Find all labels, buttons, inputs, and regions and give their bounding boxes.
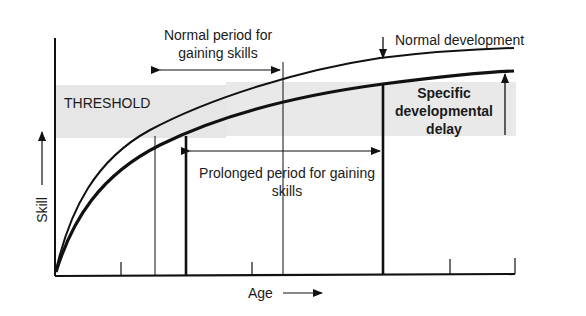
normal-period-label-line2: gaining skills: [178, 45, 257, 61]
normal-development-curve: [56, 48, 514, 270]
normal-development-label: Normal development: [395, 32, 524, 48]
x-axis: [55, 274, 515, 276]
prolonged-period-label-line1: Prolonged period for gaining: [199, 165, 375, 181]
normal-period-label-line1: Normal period for: [164, 27, 272, 43]
x-axis-label: Age: [248, 285, 273, 301]
y-axis-label: Skill: [34, 197, 50, 223]
development-diagram: THRESHOLD Normal period for gaining skil…: [0, 0, 586, 316]
threshold-label: THRESHOLD: [64, 95, 150, 111]
specific-delay-label-line3: delay: [426, 121, 462, 137]
specific-delay-label-line2: developmental: [395, 103, 493, 119]
prolonged-period-label-line2: skills: [272, 183, 302, 199]
threshold-band: [56, 85, 226, 138]
specific-delay-label-line1: Specific: [417, 85, 471, 101]
